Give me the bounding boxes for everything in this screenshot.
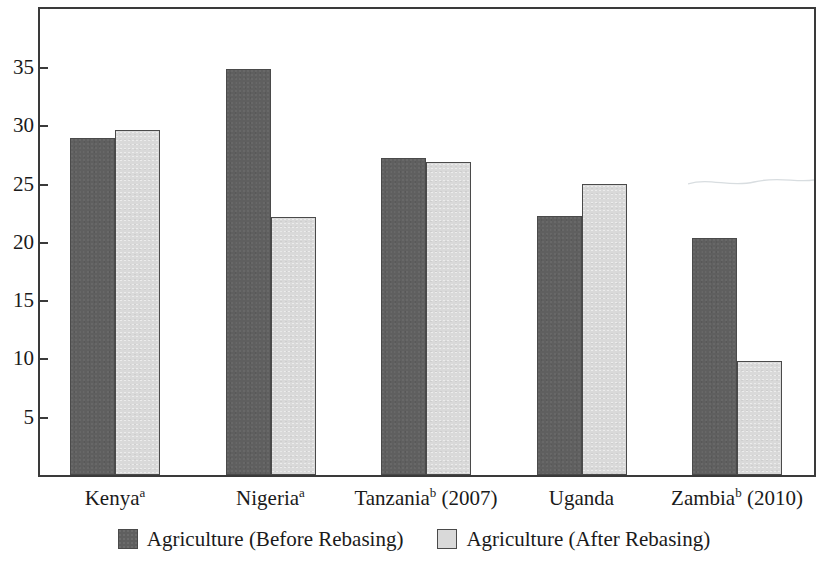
- bar-before-rebasing: [692, 238, 737, 475]
- legend-item[interactable]: Agriculture (After Rebasing): [437, 527, 710, 551]
- light-gray-swatch: [437, 529, 457, 549]
- category-footnote-marker: a: [299, 485, 305, 500]
- x-axis-category-label: Uganda: [549, 486, 614, 511]
- category-name: Zambia: [671, 486, 735, 510]
- y-axis-tick-label: 15: [13, 288, 34, 312]
- bar-before-rebasing: [381, 158, 426, 475]
- bar-after-rebasing: [115, 130, 160, 475]
- category-name: Uganda: [549, 486, 614, 510]
- category-year-suffix: (2007): [436, 486, 497, 510]
- bar-after-rebasing: [271, 217, 316, 475]
- legend-item[interactable]: Agriculture (Before Rebasing): [118, 527, 404, 551]
- y-axis-tick-label: 35: [13, 55, 34, 79]
- y-axis-tick-label: 10: [13, 346, 34, 370]
- category-year-suffix: (2010): [742, 486, 803, 510]
- bar-chart-figure: 5101520253035 KenyaaNigeriaaTanzaniab (2…: [0, 0, 828, 562]
- category-name: Kenya: [85, 486, 140, 510]
- category-name: Nigeria: [236, 486, 299, 510]
- category-footnote-marker: a: [140, 485, 146, 500]
- bar-after-rebasing: [426, 162, 471, 475]
- bar-before-rebasing: [226, 69, 271, 475]
- x-axis-category-label: Nigeriaa: [236, 486, 305, 511]
- bar-after-rebasing: [582, 184, 627, 475]
- category-name: Tanzania: [354, 486, 429, 510]
- chart-legend: Agriculture (Before Rebasing)Agriculture…: [0, 527, 828, 551]
- bars-layer: [40, 9, 814, 475]
- x-axis-category-label: Zambiab (2010): [671, 486, 803, 511]
- legend-item-label: Agriculture (After Rebasing): [466, 527, 710, 551]
- bar-before-rebasing: [70, 138, 115, 475]
- y-axis-tick-label: 30: [13, 113, 34, 137]
- x-axis-category-label: Tanzaniab (2007): [354, 486, 497, 511]
- bar-after-rebasing: [737, 361, 782, 475]
- y-axis-tick-label: 20: [13, 230, 34, 254]
- y-axis-tick-label: 25: [13, 172, 34, 196]
- x-axis-category-label: Kenyaa: [85, 486, 146, 511]
- y-axis-tick-label: 5: [24, 405, 35, 429]
- dark-gray-swatch: [118, 529, 138, 549]
- legend-item-label: Agriculture (Before Rebasing): [147, 527, 404, 551]
- bar-before-rebasing: [537, 216, 582, 475]
